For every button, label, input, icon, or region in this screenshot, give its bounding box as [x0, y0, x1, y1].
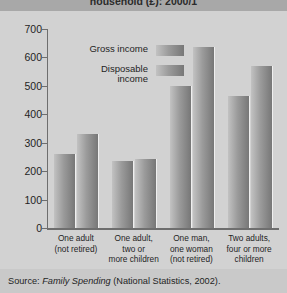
y-axis-tick-label: 400	[2, 109, 42, 119]
bar-gross-income	[77, 134, 99, 228]
y-axis-tick-label-wrap: 500	[0, 81, 42, 91]
y-axis-tick	[42, 143, 47, 144]
bar-group	[228, 29, 273, 228]
x-axis-label-line: Two adults,	[218, 233, 280, 244]
bar-disposable-income	[228, 96, 250, 228]
y-axis-tick-label: 700	[2, 24, 42, 34]
y-axis-tick	[42, 228, 47, 229]
x-axis-label: One adult(not retired)	[45, 233, 107, 254]
x-axis-label-line: One man,	[161, 233, 223, 244]
y-axis-tick	[42, 114, 47, 115]
y-axis-tick-label: 100	[2, 195, 42, 205]
x-axis-label-line: more children	[103, 254, 165, 265]
x-axis-label-line: children	[218, 254, 280, 265]
bar-disposable-income	[54, 154, 76, 228]
y-axis-line	[47, 29, 48, 229]
source-suffix: (National Statistics, 2002).	[111, 276, 221, 286]
y-axis-tick-label-wrap: 100	[0, 195, 42, 205]
source-title: Family Spending	[42, 276, 110, 286]
y-axis-tick-label: 0	[2, 223, 42, 233]
x-axis-label-line: One adult,	[103, 233, 165, 244]
y-axis-tick	[42, 200, 47, 201]
y-axis-tick-label: 600	[2, 52, 42, 62]
x-axis-label-line: one woman	[161, 244, 223, 255]
x-axis-label-line: One adult	[45, 233, 107, 244]
chart-title-band: household (£): 2000/1	[0, 0, 287, 11]
y-axis-tick-label-wrap: 200	[0, 166, 42, 176]
source-prefix: Source:	[8, 276, 42, 286]
x-axis-label-line: (not retired)	[161, 254, 223, 265]
x-axis-label-line: (not retired)	[45, 244, 107, 255]
x-axis-label-line: four or more	[218, 244, 280, 255]
y-axis-tick-label-wrap: 0	[0, 223, 42, 233]
x-axis-label: One adult,two ormore children	[103, 233, 165, 265]
bar-group	[112, 29, 157, 228]
x-axis-label-line: two or	[103, 244, 165, 255]
chart-title: household (£): 2000/1	[0, 0, 287, 7]
y-axis-tick-label: 300	[2, 138, 42, 148]
bar-gross-income	[193, 47, 215, 228]
y-axis-tick	[42, 86, 47, 87]
x-axis-labels: One adult(not retired)One adult,two ormo…	[47, 233, 279, 269]
chart-page: household (£): 2000/1 010020030040050060…	[0, 0, 287, 293]
y-axis-tick-label-wrap: 700	[0, 24, 42, 34]
x-axis-line	[47, 228, 279, 230]
y-axis-tick-label-wrap: 600	[0, 52, 42, 62]
bar-disposable-income	[170, 86, 192, 228]
bar-group	[170, 29, 215, 228]
y-axis-tick-label-wrap: 300	[0, 138, 42, 148]
plot-area: 0100200300400500600700 Gross income Disp…	[0, 11, 287, 269]
x-axis-label: Two adults,four or morechildren	[218, 233, 280, 265]
y-axis-tick-label: 200	[2, 166, 42, 176]
y-axis-tick-label-wrap: 400	[0, 109, 42, 119]
x-axis-label: One man,one woman(not retired)	[161, 233, 223, 265]
source-note: Source: Family Spending (National Statis…	[8, 276, 220, 286]
source-band: Source: Family Spending (National Statis…	[0, 269, 287, 293]
y-axis-tick	[42, 57, 47, 58]
bar-disposable-income	[112, 161, 134, 228]
y-axis-tick	[42, 171, 47, 172]
bar-group	[54, 29, 99, 228]
y-axis-tick-label: 500	[2, 81, 42, 91]
bar-gross-income	[135, 159, 157, 228]
bar-gross-income	[251, 66, 273, 228]
y-axis-tick	[42, 29, 47, 30]
